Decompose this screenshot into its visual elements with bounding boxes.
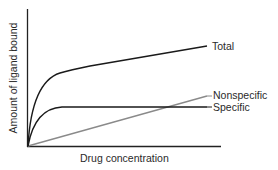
- specific-curve: [28, 107, 207, 146]
- ligand-binding-chart: [0, 0, 278, 170]
- total-curve: [28, 46, 207, 146]
- x-axis-label: Drug concentration: [80, 153, 169, 164]
- specific-label: Specific: [213, 102, 250, 113]
- nonspecific-curve: [28, 96, 207, 146]
- nonspecific-label: Nonspecific: [213, 90, 267, 101]
- y-axis-label: Amount of ligand bound: [8, 23, 19, 134]
- total-label: Total: [212, 41, 234, 52]
